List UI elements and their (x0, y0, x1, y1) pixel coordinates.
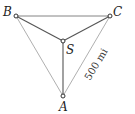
label-s: S (66, 43, 74, 57)
point-c-marker (108, 14, 112, 18)
triangle-diagram: B C S A 500 mi (0, 0, 135, 114)
label-c: C (113, 5, 122, 19)
distance-label: 500 mi (82, 46, 109, 82)
label-b: B (2, 5, 12, 19)
point-s-marker (61, 39, 65, 43)
label-a: A (58, 100, 68, 114)
point-a-marker (61, 94, 65, 98)
point-b-marker (14, 14, 18, 18)
